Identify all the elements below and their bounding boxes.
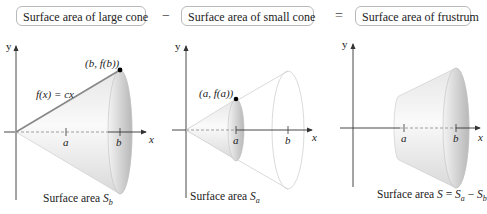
tick-a-label: a [233, 134, 239, 146]
x-axis-label: x [477, 131, 483, 143]
small-cone-panel: y x a b (a, f(a)) [172, 40, 317, 198]
small-cone-caption: Surface area Sa [190, 190, 260, 205]
function-label: f(x) = cx [36, 88, 74, 101]
tick-a-label: a [401, 132, 407, 144]
y-axis-label: y [175, 40, 181, 52]
tick-b-label: b [116, 136, 122, 148]
large-cone-caption: Surface area Sb [43, 192, 113, 207]
frustrum-panel: y x a b [340, 38, 483, 188]
frustrum-caption: Surface area S = Sa − Sb [377, 188, 487, 203]
tick-b-label: b [453, 132, 459, 144]
diagram-canvas: y x a b (b, f(b)) f(x) = cx y x a b (a, … [0, 0, 487, 214]
x-axis-label: x [311, 131, 317, 143]
tick-a-label: a [63, 136, 69, 148]
point-a-label: (a, f(a)) [199, 87, 234, 100]
point-b-label: (b, f(b)) [85, 57, 120, 70]
point-a-marker [234, 97, 239, 102]
tick-b-label: b [285, 134, 291, 146]
y-axis-label: y [342, 38, 348, 50]
y-axis-label: y [6, 40, 12, 52]
large-cone-panel: y x a b (b, f(b)) f(x) = cx [4, 40, 154, 200]
x-axis-label: x [148, 133, 154, 145]
